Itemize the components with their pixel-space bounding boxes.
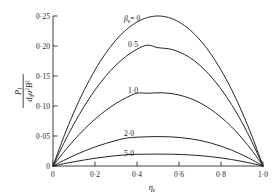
y-tick-label-3: 0·15 xyxy=(36,72,50,81)
curve-label-5-0: 5·0 xyxy=(124,149,134,158)
curve-label-2-0: 2·0 xyxy=(124,129,134,138)
y-axis-label-numerator-sub: 1 xyxy=(17,87,23,90)
curve-label-1-0: 1·0 xyxy=(128,86,138,95)
y-tick-label-4: 0·20 xyxy=(36,42,50,51)
y-tick-label-2: 0·10 xyxy=(36,102,50,111)
y-tick-label-5: 0·25 xyxy=(36,12,50,21)
y-tick-label-1: 0·05 xyxy=(36,132,50,141)
chart-background xyxy=(0,0,280,194)
svg-text:d0u2B2: d0u2B2 xyxy=(24,80,35,102)
x-tick-label-5: 1·0 xyxy=(258,170,268,179)
curve-label-0-5: 0·5 xyxy=(128,40,138,49)
x-tick-label-2: 0·4 xyxy=(132,170,142,179)
y-tick-label-0: 0 xyxy=(46,162,50,171)
curve-label-beta-0: βe= 0 xyxy=(123,14,140,24)
x-tick-label-0: 0 xyxy=(51,170,55,179)
x-tick-label-3: 0·6 xyxy=(174,170,184,179)
y-axis-label-B-sup: 2 xyxy=(24,80,30,83)
chart-figure: 0 0·05 0·10 0·15 0·20 0·25 0 0·2 0·4 0·6… xyxy=(0,0,280,194)
x-tick-label-1: 0·2 xyxy=(90,170,100,179)
x-tick-label-4: 0·8 xyxy=(216,170,226,179)
